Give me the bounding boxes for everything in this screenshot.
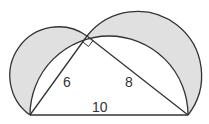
label-leg-6: 6 bbox=[63, 74, 71, 90]
lune-diagram: 6 8 10 bbox=[0, 0, 209, 124]
label-leg-8: 8 bbox=[125, 74, 133, 90]
label-hypotenuse-10: 10 bbox=[92, 99, 108, 115]
